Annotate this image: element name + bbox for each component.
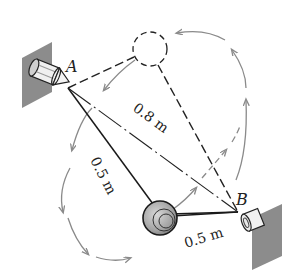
ball-ghost-position — [133, 32, 167, 66]
dimension-AB: 0.8 m — [130, 99, 172, 135]
pendulum-diagram: A B 0.8 m 0.5 m 0.5 m — [0, 0, 296, 276]
wall-support-B — [239, 204, 282, 270]
strings — [68, 88, 238, 214]
axis-line-AB — [68, 88, 238, 212]
wall-support-A — [22, 42, 72, 108]
ball — [143, 201, 177, 235]
dimension-A-ball: 0.5 m — [87, 154, 119, 197]
ghost-strings — [68, 57, 238, 212]
dimension-ball-B: 0.5 m — [182, 224, 225, 251]
label-point-B: B — [235, 190, 248, 209]
label-point-A: A — [64, 57, 78, 76]
